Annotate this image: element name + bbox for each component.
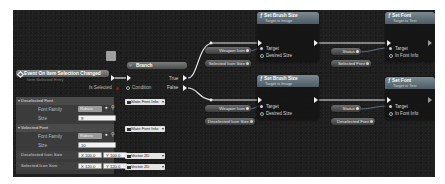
collapse-arrow-icon xyxy=(18,100,20,102)
event-diamond-icon xyxy=(17,70,24,77)
font-family-combo[interactable]: Roboto xyxy=(78,106,102,112)
target-pin[interactable] xyxy=(260,105,263,108)
node-header: ƒ Set Font Target is Text xyxy=(385,12,435,24)
target-label: Target xyxy=(395,104,408,109)
branch-exec-in-pin[interactable] xyxy=(127,75,131,81)
event-node-title: Event On Item Selection Changed xyxy=(24,71,101,76)
is-selected-label: Is Selected xyxy=(89,85,112,90)
deselected-font-getter[interactable]: Deselected Font xyxy=(331,118,375,125)
condition-label: Condition xyxy=(132,85,151,90)
selected-icon-size-getter[interactable]: Selected Icon Size xyxy=(205,60,251,67)
branch-node-title: Branch xyxy=(136,63,153,68)
search-icon[interactable]: ⚲ xyxy=(111,105,115,110)
event-graph-icon xyxy=(106,51,116,61)
type-dropdown-slate-font-info[interactable]: Slate Font Info xyxy=(125,99,165,105)
event-exec-out-pin[interactable] xyxy=(111,75,115,81)
target-label: Target xyxy=(266,104,279,109)
event-node-header[interactable]: Event On Item Selection Changed xyxy=(16,70,109,77)
target-pin[interactable] xyxy=(389,47,392,50)
size-input[interactable]: 10 xyxy=(78,142,116,148)
condition-pin[interactable] xyxy=(126,86,130,90)
event-node-subtitle: Item Selected Entry xyxy=(27,77,64,82)
type-dropdown-vector-2d[interactable]: Vector 2D xyxy=(125,164,165,170)
weapon-icon-getter[interactable]: Weapon Icon xyxy=(205,47,251,54)
target-pin[interactable] xyxy=(389,105,392,108)
size-label: Size xyxy=(38,116,47,121)
exec-out-pin[interactable] xyxy=(314,40,318,46)
font-family-label: Font Family xyxy=(38,107,62,112)
branch-node-header[interactable]: ⑂ Branch xyxy=(127,62,187,69)
deselected-icon-size-getter[interactable]: Deselected Icon Size xyxy=(205,118,255,125)
in-font-info-label: In Font Info xyxy=(395,53,418,58)
target-label: Target xyxy=(395,46,408,51)
is-selected-pin[interactable] xyxy=(116,87,119,90)
branch-true-pin[interactable] xyxy=(183,75,187,81)
exec-in-pin[interactable] xyxy=(387,40,391,46)
exec-in-pin[interactable] xyxy=(387,97,391,103)
exec-out-pin[interactable] xyxy=(314,97,318,103)
size-label: Size xyxy=(38,143,47,148)
node-header: ƒ Set Brush Size Target is Image xyxy=(257,75,319,87)
node-header: ƒ Set Font Target is Text xyxy=(385,77,435,89)
browse-icon[interactable]: ● xyxy=(105,132,108,137)
type-dropdown-vector-2d[interactable]: Vector 2D xyxy=(125,153,165,159)
exec-out-pin[interactable] xyxy=(428,40,432,46)
category-deselected-font[interactable]: Deselected Font xyxy=(16,97,114,105)
selected-font-getter[interactable]: Selected Font xyxy=(331,60,371,67)
chevron-down-icon xyxy=(162,155,164,157)
type-dropdown-slate-font-info[interactable]: Slate Font Info xyxy=(125,126,165,132)
status-getter[interactable]: Status xyxy=(331,105,361,112)
selected-icon-size-y[interactable]: Y 120.0 xyxy=(103,163,127,169)
deselected-icon-size-x[interactable]: X 100.0 xyxy=(78,152,102,158)
exec-out-pin[interactable] xyxy=(428,97,432,103)
collapse-arrow-icon xyxy=(18,127,20,129)
font-family-combo[interactable]: Roboto xyxy=(78,133,102,139)
size-input[interactable]: 9 xyxy=(78,115,116,121)
chevron-down-icon xyxy=(162,166,164,168)
category-selected-font[interactable]: Selected Font xyxy=(16,124,114,132)
target-pin[interactable] xyxy=(260,47,263,50)
search-icon[interactable]: ⚲ xyxy=(111,132,115,137)
exec-in-pin[interactable] xyxy=(258,40,262,46)
desired-size-label: Desired Size xyxy=(266,53,292,58)
chevron-down-icon xyxy=(162,128,164,130)
true-label: True xyxy=(169,76,178,81)
exec-in-pin[interactable] xyxy=(258,97,262,103)
status-getter[interactable]: Status xyxy=(331,48,361,55)
branch-false-pin[interactable] xyxy=(183,85,187,91)
chevron-down-icon xyxy=(162,101,164,103)
target-label: Target xyxy=(266,46,279,51)
weapon-icon-getter[interactable]: Weapon Icon xyxy=(205,105,251,112)
desired-size-label: Desired Size xyxy=(266,111,292,116)
font-family-label: Font Family xyxy=(38,134,62,139)
selected-icon-size-x[interactable]: X 120.0 xyxy=(78,163,102,169)
in-font-info-label: In Font Info xyxy=(395,111,418,116)
browse-icon[interactable]: ● xyxy=(105,105,108,110)
branch-icon: ⑂ xyxy=(129,63,132,68)
deselected-icon-size-y[interactable]: Y 100.0 xyxy=(103,152,127,158)
blueprint-graph-canvas[interactable]: Event On Item Selection Changed Item Sel… xyxy=(13,10,435,177)
false-label: False xyxy=(167,85,178,90)
node-header: ƒ Set Brush Size Target is Image xyxy=(257,12,319,24)
